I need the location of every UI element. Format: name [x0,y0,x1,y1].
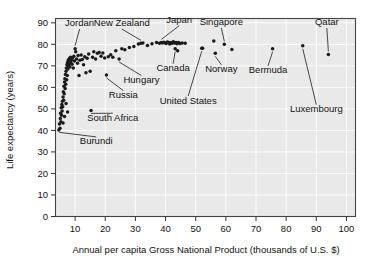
data-point [176,49,180,53]
data-point [72,66,76,70]
data-point [101,51,105,55]
data-point [63,87,67,91]
y-tick-label: 60 [37,82,48,93]
x-tick-label: 90 [311,223,322,234]
data-point [81,58,85,62]
y-tick-label: 80 [37,39,48,50]
data-point [103,56,107,60]
data-point [111,55,115,59]
y-tick-label: 70 [37,60,48,71]
annotation-label-hungary: Hungary [123,74,159,85]
data-point [97,51,101,55]
x-tick-label: 40 [160,223,171,234]
data-point [117,57,121,61]
data-point [64,82,68,86]
x-axis-title: Annual per capita Gross National Product… [72,244,339,255]
data-point [201,46,205,50]
data-point [62,92,66,96]
y-tick-label: 30 [37,146,48,157]
data-point [146,44,150,48]
data-point [60,109,64,113]
data-point [64,102,68,106]
data-point [60,114,64,118]
annotation-label-united-states: United States [160,95,217,106]
data-point [114,49,118,53]
y-tick-label: 40 [37,125,48,136]
x-tick-label: 100 [339,223,355,234]
data-point [214,52,218,56]
data-point [62,99,66,103]
data-point [63,115,67,119]
y-tick-label: 0 [43,211,48,222]
data-point [82,63,86,67]
data-point [120,47,124,51]
y-axis-title: Life expectancy (years) [4,71,15,169]
x-tick-label: 30 [130,223,141,234]
data-point [327,53,331,57]
data-point [74,50,78,54]
annotation-label-japan: Japan [166,14,192,25]
data-point [150,42,154,46]
annotation-label-singapore: Singapore [200,16,243,27]
x-tick-label: 20 [100,223,111,234]
data-point [99,54,103,58]
annotation-label-south-africa: South Africa [87,112,139,123]
annotation-label-norway: Norway [205,63,237,74]
annotation-label-burundi: Burundi [80,135,113,146]
y-tick-label: 90 [37,17,48,28]
x-tick-label: 80 [281,223,292,234]
data-point [212,39,216,43]
data-point [73,47,77,51]
y-tick-label: 10 [37,189,48,200]
data-point [72,54,76,58]
x-tick-label: 10 [70,223,81,234]
data-point [66,74,70,78]
data-point [61,121,65,125]
life-expectancy-vs-gnp-scatter-plot: 102030405060708090100 010203040506070809… [0,0,377,262]
data-point [85,57,89,61]
data-point [65,78,69,82]
data-point [128,46,132,50]
data-point [68,65,72,69]
y-tick-label: 20 [37,168,48,179]
data-point [59,117,63,121]
data-point [94,57,98,61]
data-point [61,105,65,109]
data-point [155,41,159,45]
data-point [271,47,275,51]
data-point [58,127,62,131]
data-point [123,48,127,52]
data-point [76,62,80,66]
data-point [87,52,91,56]
x-tick-label: 70 [251,223,262,234]
data-point [79,53,83,57]
data-point [183,42,187,46]
annotation-label-russia: Russia [109,89,139,100]
data-point [230,48,234,52]
annotation-label-qatar: Qatar [315,16,339,27]
data-point [75,57,79,61]
data-point [76,54,80,58]
annotation-label-new-zealand: New Zealand [94,17,150,28]
y-tick-label: 50 [37,103,48,114]
data-point [223,43,227,47]
data-point [66,110,70,114]
data-point [92,50,96,54]
data-point [84,71,88,75]
data-point [88,69,92,73]
data-point [141,41,145,45]
annotation-label-canada: Canada [156,62,190,73]
scatter-chart-figure: 102030405060708090100 010203040506070809… [0,0,377,262]
data-point [77,74,81,78]
annotation-label-jordan: Jordan [65,17,94,28]
x-tick-label: 60 [221,223,232,234]
annotation-label-bermuda: Bermuda [249,64,288,75]
data-point [301,44,305,48]
data-point [70,62,74,66]
x-tick-label: 50 [190,223,201,234]
data-point [91,55,95,59]
data-point [180,41,184,45]
annotation-label-luxembourg: Luxembourg [290,103,343,114]
data-point [61,95,65,99]
data-point [132,45,136,49]
